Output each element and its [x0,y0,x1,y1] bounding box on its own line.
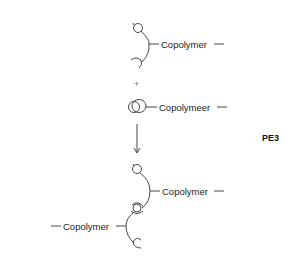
product-lower-arc [126,212,134,243]
reactant-2-label: Copolymeer [159,102,210,113]
product-ring-bottom-icon [133,238,141,248]
product-right-label: Copolymer [162,186,208,197]
diagram-id-label: PE3 [262,133,279,143]
backbone-arc [141,31,149,62]
product-upper-arc [140,173,150,208]
product: Copolymer Copolymer [51,164,224,248]
reactant-1-label: Copolymer [161,39,207,50]
reaction-diagram: Copolymer + Copolymeer PE3 Copolymer Cop… [0,0,293,260]
reactant-1: Copolymer [131,23,224,68]
reactant-2: Copolymeer [129,100,228,114]
product-link-ring-icon [133,204,141,212]
product-ring-top-icon [133,165,142,174]
ring-bottom-icon [131,58,142,68]
product-left-label: Copolymer [63,221,109,232]
plus-operator: + [134,79,139,89]
reaction-arrow-icon [134,124,140,153]
